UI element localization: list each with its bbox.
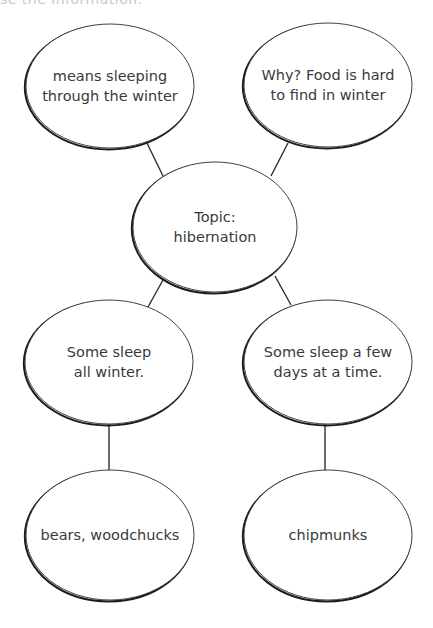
bubble-label-top-right: Why? Food is hardto find in winter <box>262 65 395 105</box>
connector-center-to-mid-right <box>275 276 291 305</box>
bubble-text-line: chipmunks <box>289 525 368 545</box>
bubble-text-line: to find in winter <box>262 85 395 105</box>
bubble-text-line: Some sleep <box>67 342 151 362</box>
bubble-text-line: Why? Food is hard <box>262 65 395 85</box>
bubble-text-line: hibernation <box>174 227 257 247</box>
bubble-text-line: days at a time. <box>264 362 392 382</box>
connector-top-right-to-center <box>271 143 288 176</box>
bubble-text-line: bears, woodchucks <box>41 525 180 545</box>
bubble-text-line: all winter. <box>67 362 151 382</box>
bubble-label-bottom-right: chipmunks <box>289 525 368 545</box>
bubble-nodes <box>24 23 412 601</box>
connector-top-left-to-center <box>146 141 163 176</box>
connector-center-to-mid-left <box>148 280 163 307</box>
bubble-label-center: Topic:hibernation <box>174 207 257 247</box>
bubble-label-bottom-left: bears, woodchucks <box>41 525 180 545</box>
bubble-label-top-left: means sleepingthrough the winter <box>42 66 178 106</box>
bubble-label-mid-right: Some sleep a fewdays at a time. <box>264 342 392 382</box>
bubble-text-line: Topic: <box>174 207 257 227</box>
bubble-label-mid-left: Some sleepall winter. <box>67 342 151 382</box>
bubble-text-line: Some sleep a few <box>264 342 392 362</box>
bubble-text-line: through the winter <box>42 86 178 106</box>
bubble-text-line: means sleeping <box>42 66 178 86</box>
